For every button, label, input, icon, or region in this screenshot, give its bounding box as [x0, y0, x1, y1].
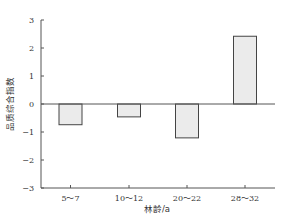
bar-4	[234, 36, 257, 104]
y-tick-label: 3	[29, 16, 34, 25]
y-tick-label: −3	[22, 184, 34, 193]
bars	[59, 36, 257, 138]
bar-chart: 3210−1−2−3 5～710～1220～2228～32 品质综合指数 林龄/…	[0, 0, 286, 224]
x-tick-label: 5～7	[61, 194, 79, 203]
y-tick-label: 2	[29, 44, 34, 53]
y-tick-label: 0	[29, 100, 34, 109]
y-tick-label: −1	[22, 128, 34, 137]
bar-2	[118, 104, 141, 117]
x-tick-label: 20～22	[173, 194, 201, 203]
x-tick-label: 10～12	[115, 194, 143, 203]
y-tick-label: 1	[29, 72, 34, 81]
x-axis-title: 林龄/a	[144, 204, 170, 214]
bar-3	[176, 104, 199, 138]
x-tick-label: 28～32	[231, 194, 259, 203]
y-axis-title: 品质综合指数	[5, 77, 15, 131]
y-tick-label: −2	[22, 156, 34, 165]
bar-1	[59, 104, 82, 125]
